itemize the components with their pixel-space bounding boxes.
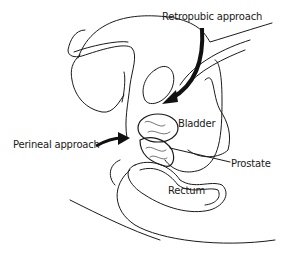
label-prostate: Prostate	[231, 158, 271, 169]
perineal-arrowhead	[118, 132, 130, 145]
anatomy-diagram	[0, 0, 287, 259]
prostate-upper	[138, 114, 178, 142]
buttock-outline	[117, 170, 275, 243]
label-bladder: Bladder	[178, 118, 215, 129]
retropubic-arrow	[172, 28, 202, 98]
thigh-outline	[70, 200, 160, 240]
abdomen-outline	[78, 16, 272, 58]
label-retropubic-approach: Retropubic approach	[162, 11, 262, 22]
label-rectum: Rectum	[168, 185, 205, 196]
label-perineal-approach: Perineal approach	[13, 139, 100, 150]
